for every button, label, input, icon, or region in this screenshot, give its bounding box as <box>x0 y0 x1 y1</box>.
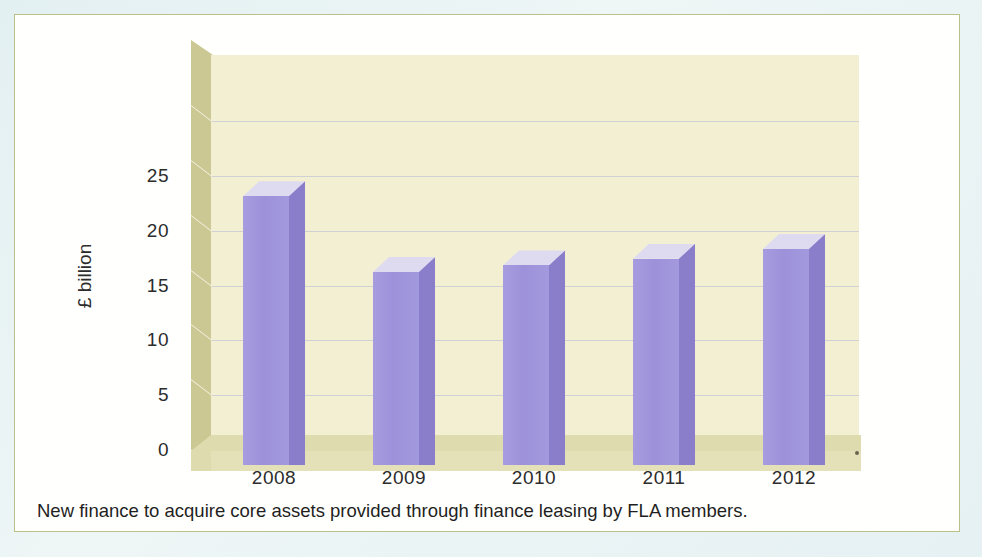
y-tick-label: 15 <box>123 275 169 297</box>
x-tick-label: 2012 <box>739 467 849 489</box>
bar-2009 <box>373 257 435 465</box>
gridline <box>211 176 859 177</box>
y-tick-label: 5 <box>123 384 169 406</box>
x-tick-label: 2010 <box>479 467 589 489</box>
x-tick-label: 2011 <box>609 467 719 489</box>
bar-side-face <box>289 181 305 465</box>
x-tick-label: 2008 <box>219 467 329 489</box>
bar-front-face <box>243 196 289 465</box>
bar-2008 <box>243 181 305 465</box>
chart-card: 0510152025 £ billion 2008200920102011201… <box>14 14 960 532</box>
gridline <box>211 231 859 232</box>
bar-side-face <box>809 234 825 465</box>
bar-front-face <box>763 249 809 465</box>
y-tick-label: 10 <box>123 329 169 351</box>
scanned-page: 0510152025 £ billion 2008200920102011201… <box>0 0 982 557</box>
bar-front-face <box>373 272 419 465</box>
bar-side-face <box>679 244 695 465</box>
bar-2012 <box>763 234 825 465</box>
gridline <box>211 121 859 122</box>
bar-2010 <box>503 250 565 465</box>
bar-front-face <box>633 259 679 465</box>
scan-artifact-speck <box>855 451 859 455</box>
bar-side-face <box>419 257 435 465</box>
y-axis-label: £ billion <box>74 196 96 356</box>
y-tick-label: 20 <box>123 220 169 242</box>
bar-2011 <box>633 244 695 465</box>
bar-side-face <box>549 250 565 465</box>
y-tick-label: 25 <box>123 165 169 187</box>
x-tick-label: 2009 <box>349 467 459 489</box>
bar-front-face <box>503 265 549 465</box>
chart-caption: New finance to acquire core assets provi… <box>37 500 748 522</box>
bar-chart: 0510152025 £ billion 2008200920102011201… <box>15 15 959 485</box>
y-tick-label: 0 <box>123 439 169 461</box>
